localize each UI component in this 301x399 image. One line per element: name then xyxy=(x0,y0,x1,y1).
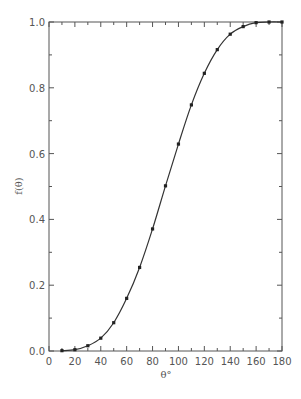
data-point xyxy=(112,321,115,324)
chart: 020406080100120140160180 0.00.20.40.60.8… xyxy=(0,0,301,399)
x-tick-label: 80 xyxy=(146,356,159,367)
data-point xyxy=(203,72,206,75)
data-point xyxy=(138,266,141,269)
data-point xyxy=(177,142,180,145)
y-axis-tick-labels: 0.00.20.40.60.81.0 xyxy=(29,17,45,357)
data-point xyxy=(255,21,258,24)
x-tick-label: 120 xyxy=(195,356,214,367)
x-tick-label: 160 xyxy=(247,356,266,367)
y-tick-label: 0.6 xyxy=(29,149,45,160)
data-point xyxy=(125,297,128,300)
x-tick-label: 40 xyxy=(94,356,107,367)
data-point xyxy=(151,227,154,230)
data-point xyxy=(229,33,232,36)
data-point xyxy=(216,48,219,51)
y-tick-label: 0.2 xyxy=(29,280,45,291)
x-tick-label: 0 xyxy=(46,356,52,367)
x-axis-tick-labels: 020406080100120140160180 xyxy=(46,356,292,367)
data-point xyxy=(242,25,245,28)
data-point xyxy=(73,348,76,351)
y-tick-label: 0.4 xyxy=(29,214,45,225)
x-tick-label: 20 xyxy=(69,356,82,367)
y-tick-label: 0.8 xyxy=(29,83,45,94)
data-point xyxy=(99,337,102,340)
x-axis-title: θ° xyxy=(160,369,171,380)
data-point xyxy=(86,344,89,347)
data-point xyxy=(280,20,283,23)
x-tick-label: 140 xyxy=(221,356,240,367)
data-point xyxy=(190,103,193,106)
y-axis-title: f(θ) xyxy=(13,177,24,195)
y-tick-label: 1.0 xyxy=(29,17,45,28)
data-point xyxy=(60,349,63,352)
data-point xyxy=(164,184,167,187)
x-tick-label: 100 xyxy=(169,356,188,367)
x-tick-label: 180 xyxy=(272,356,291,367)
data-point-markers xyxy=(60,20,283,352)
fitted-curve xyxy=(62,22,282,351)
data-point xyxy=(267,20,270,23)
y-tick-label: 0.0 xyxy=(29,346,45,357)
x-tick-label: 60 xyxy=(120,356,133,367)
